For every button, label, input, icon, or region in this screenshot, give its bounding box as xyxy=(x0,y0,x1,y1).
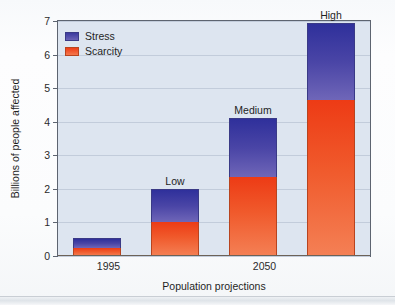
bar-annotation: Medium xyxy=(234,104,271,116)
legend-label-scarcity: Scarcity xyxy=(85,45,122,57)
x-axis-title: Population projections xyxy=(57,280,371,292)
y-tick-label: 4 xyxy=(44,116,50,128)
bar-medium: Medium xyxy=(229,118,277,256)
x-axis-line xyxy=(58,255,370,256)
y-tick-mark xyxy=(53,155,58,156)
y-tick-mark xyxy=(53,189,58,190)
legend-item-stress: Stress xyxy=(65,30,122,42)
legend-swatch-scarcity-icon xyxy=(65,47,79,56)
bar-segment-stress xyxy=(229,118,277,177)
bar-segment-scarcity xyxy=(229,177,277,256)
bar-annotation: High xyxy=(320,9,342,21)
legend-label-stress: Stress xyxy=(85,30,115,42)
y-tick-label: 5 xyxy=(44,82,50,94)
chart-legend: Stress Scarcity xyxy=(65,30,122,60)
y-tick-label: 6 xyxy=(44,49,50,61)
page-bottom-edge xyxy=(0,297,395,305)
y-axis-title: Billions of people affected xyxy=(9,20,23,257)
x-tick-label: 1995 xyxy=(97,260,120,272)
x-tick-label: 2050 xyxy=(253,260,276,272)
bar-low: Low xyxy=(151,189,199,256)
bar-segment-stress xyxy=(307,23,355,100)
y-tick-label: 3 xyxy=(44,149,50,161)
y-tick-mark xyxy=(53,222,58,223)
y-tick-mark xyxy=(53,122,58,123)
y-tick-mark xyxy=(53,88,58,89)
bar-segment-stress xyxy=(73,238,121,248)
y-tick-label: 2 xyxy=(44,183,50,195)
bar-annotation: Low xyxy=(165,175,184,187)
bar-high: High xyxy=(307,23,355,256)
gridline xyxy=(58,256,370,257)
y-tick-mark xyxy=(53,256,58,257)
y-tick-label: 7 xyxy=(44,15,50,27)
legend-item-scarcity: Scarcity xyxy=(65,45,122,57)
bar-1995 xyxy=(73,238,121,256)
plot-area: 01234567 LowMediumHigh Stress Scarcity xyxy=(57,20,371,257)
bar-segment-scarcity xyxy=(307,100,355,256)
y-tick-mark xyxy=(53,21,58,22)
bar-segment-stress xyxy=(151,189,199,223)
y-tick-mark xyxy=(53,55,58,56)
bar-segment-scarcity xyxy=(151,222,199,256)
y-tick-label: 1 xyxy=(44,216,50,228)
y-tick-label: 0 xyxy=(44,250,50,262)
chart-image: Billions of people affected 01234567 Low… xyxy=(0,0,395,305)
legend-swatch-stress-icon xyxy=(65,32,79,41)
